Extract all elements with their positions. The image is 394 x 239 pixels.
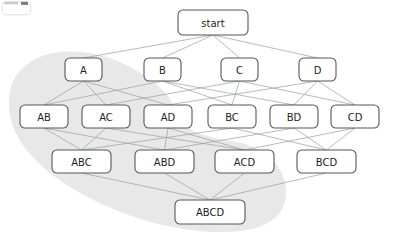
node-ABC[interactable]: ABC [52, 150, 111, 173]
node-ABCD[interactable]: ABCD [175, 200, 245, 224]
edge-start-to-D [213, 35, 318, 58]
node-ABD[interactable]: ABD [135, 150, 194, 173]
node-start[interactable]: start [178, 10, 248, 35]
node-A[interactable]: A [65, 58, 102, 81]
node-box-start[interactable] [178, 10, 248, 35]
node-D[interactable]: D [299, 58, 336, 81]
lattice-diagram-canvas: startABCDABACADBCBDCDABCABDACDBCDABCD [0, 0, 394, 239]
node-box-BD[interactable] [270, 105, 318, 128]
node-AC[interactable]: AC [82, 105, 130, 128]
edge-start-to-C [213, 35, 240, 58]
node-AD[interactable]: AD [144, 105, 192, 128]
node-box-BC[interactable] [208, 105, 256, 128]
node-box-AB[interactable] [20, 105, 68, 128]
node-CD[interactable]: CD [331, 105, 379, 128]
node-box-C[interactable] [221, 58, 258, 81]
edge-start-to-A [84, 35, 214, 58]
node-box-AC[interactable] [82, 105, 130, 128]
edge-CD-to-BCD [327, 128, 356, 150]
node-box-A[interactable] [65, 58, 102, 81]
node-box-ABC[interactable] [52, 150, 111, 173]
node-BCD[interactable]: BCD [297, 150, 356, 173]
edge-start-to-B [163, 35, 214, 58]
node-BC[interactable]: BC [208, 105, 256, 128]
node-B[interactable]: B [144, 58, 181, 81]
edge-D-to-AD [168, 81, 318, 105]
node-BD[interactable]: BD [270, 105, 318, 128]
node-box-ABD[interactable] [135, 150, 194, 173]
node-box-CD[interactable] [331, 105, 379, 128]
node-ACD[interactable]: ACD [215, 150, 274, 173]
node-C[interactable]: C [221, 58, 258, 81]
node-AB[interactable]: AB [20, 105, 68, 128]
node-box-ABCD[interactable] [175, 200, 245, 224]
node-box-BCD[interactable] [297, 150, 356, 173]
edge-CD-to-ACD [245, 128, 356, 150]
node-box-D[interactable] [299, 58, 336, 81]
node-box-B[interactable] [144, 58, 181, 81]
edge-C-to-BC [232, 81, 240, 105]
lattice-svg: startABCDABACADBCBDCDABCABDACDBCDABCD [0, 0, 394, 239]
node-box-ACD[interactable] [215, 150, 274, 173]
edge-B-to-BD [163, 81, 295, 105]
corner-artifact [2, 2, 31, 15]
node-box-AD[interactable] [144, 105, 192, 128]
